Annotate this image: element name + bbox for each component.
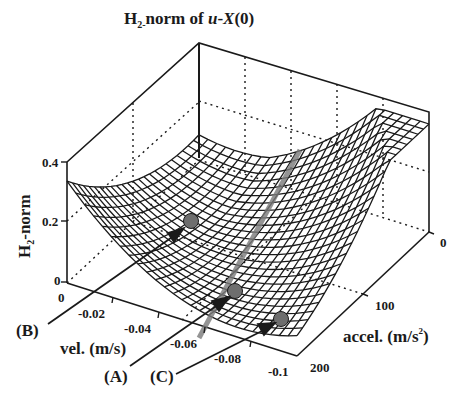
z-tick-0: 0 — [54, 273, 61, 288]
x-tick-neg-0-02: -0.02 — [78, 306, 105, 321]
x-tick-neg-0-1: -0.1 — [268, 364, 289, 379]
y-axis: 0 100 200 accel. (m/s2) — [310, 232, 447, 375]
z-axis: 0.4 0.2 0 H2-norm — [15, 155, 67, 288]
annotation-label-C: (C) — [150, 367, 174, 386]
marker-B-circle — [184, 214, 199, 229]
x-tick-0: 0 — [58, 290, 65, 305]
marker-C-circle — [274, 312, 289, 327]
z-axis-label: H2-norm — [15, 194, 36, 258]
x-tick-neg-0-08: -0.08 — [214, 351, 242, 366]
annotation-label-A: (A) — [104, 367, 128, 386]
x-tick-neg-0-06: -0.06 — [170, 336, 198, 351]
z-tick-0-4: 0.4 — [42, 155, 59, 170]
y-tick-0: 0 — [440, 235, 447, 250]
x-axis-label: vel. (m/s) — [60, 339, 126, 358]
y-axis-label: accel. (m/s2) — [343, 326, 429, 346]
chart-title: H2-norm of u-X(0) — [124, 9, 254, 30]
y-tick-200: 200 — [310, 360, 330, 375]
annotation-label-B: (B) — [16, 321, 39, 340]
surface-plot: H2-norm of u-X(0) — [0, 0, 463, 407]
z-tick-0-2: 0.2 — [42, 214, 58, 229]
x-tick-neg-0-04: -0.04 — [124, 321, 152, 336]
y-tick-100: 100 — [375, 298, 395, 313]
